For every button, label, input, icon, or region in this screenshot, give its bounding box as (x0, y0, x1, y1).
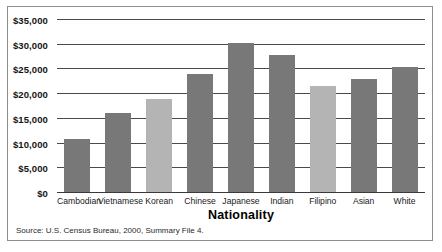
y-axis-tick-label: $15,000 (13, 113, 57, 124)
source-note: Source: U.S. Census Bureau, 2000, Summar… (16, 226, 204, 235)
x-tick-label-japanese: Japanese (221, 196, 262, 206)
x-tick-label-indian: Indian (261, 196, 302, 206)
x-tick-label-chinese: Chinese (180, 196, 221, 206)
gridline: $0 (57, 192, 425, 193)
bar-indian (269, 55, 295, 192)
y-axis-tick-label: $10,000 (13, 138, 57, 149)
x-axis-title: Nationality (57, 208, 425, 222)
bar-asian (351, 79, 377, 192)
x-tick-label-filipino: Filipino (302, 196, 343, 206)
y-axis-tick-label: $0 (37, 188, 57, 199)
bar-white (392, 67, 418, 192)
bar-filipino (310, 86, 336, 192)
y-axis-tick-label: $25,000 (13, 64, 57, 75)
y-axis-tick-label: $35,000 (13, 15, 57, 26)
bar-japanese (228, 43, 254, 192)
figure-panel: $0$5,000$10,000$15,000$20,000$25,000$30,… (0, 0, 442, 252)
y-axis-tick-label: $20,000 (13, 89, 57, 100)
x-tick-label-asian: Asian (343, 196, 384, 206)
bar-korean (146, 99, 172, 192)
bar-cambodian (64, 139, 90, 192)
bars-group (57, 19, 425, 192)
y-axis-tick-label: $5,000 (18, 163, 57, 174)
y-axis-tick-label: $30,000 (13, 39, 57, 50)
x-tick-label-white: White (384, 196, 425, 206)
clipped-text-sliver (12, 0, 72, 5)
bar-vietnamese (105, 113, 131, 192)
x-tick-label-cambodian: Cambodian (57, 196, 98, 206)
plot-area: $0$5,000$10,000$15,000$20,000$25,000$30,… (57, 19, 425, 192)
x-tick-label-vietnamese: Vietnamese (98, 196, 139, 206)
x-tick-label-korean: Korean (139, 196, 180, 206)
bar-chinese (187, 74, 213, 192)
